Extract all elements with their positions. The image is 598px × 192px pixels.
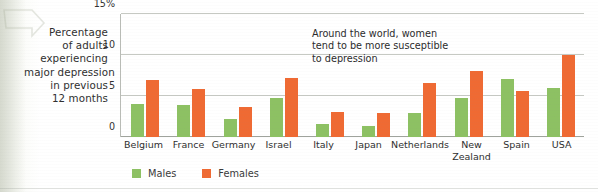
bar-males-israel bbox=[270, 98, 283, 137]
x-axis-label-italy: Italy bbox=[301, 139, 346, 162]
annotation-line: Around the world, women bbox=[312, 28, 448, 40]
bar-group bbox=[214, 14, 260, 137]
bar-males-japan bbox=[362, 126, 375, 137]
bottom-divider bbox=[0, 188, 598, 189]
bar-group bbox=[538, 14, 584, 137]
bar-group bbox=[492, 14, 538, 137]
bar-males-belgium bbox=[131, 104, 144, 137]
x-axis-label-line: Zealand bbox=[449, 151, 494, 163]
bar-group bbox=[261, 14, 307, 137]
x-axis-label-line: Japan bbox=[346, 139, 391, 151]
x-axis-label-line: New bbox=[449, 139, 494, 151]
x-axis-label-line: Belgium bbox=[121, 139, 166, 151]
caption-line: 12 months bbox=[24, 92, 108, 105]
bar-males-italy bbox=[316, 124, 329, 137]
x-axis-label-netherlands: Netherlands bbox=[391, 139, 449, 162]
bar-males-new-zealand bbox=[455, 98, 468, 137]
x-axis-label-germany: Germany bbox=[211, 139, 256, 162]
bar-males-france bbox=[177, 105, 190, 137]
chart-caption: Percentage of adults experiencing major … bbox=[24, 26, 108, 105]
plot-area: 15%1050 Around the world, women tend to … bbox=[120, 14, 584, 137]
annotation-line: tend to be more susceptible bbox=[312, 40, 448, 52]
bar-group bbox=[445, 14, 491, 137]
male-swatch-icon bbox=[132, 169, 141, 178]
y-axis-tick-label: 0 bbox=[109, 121, 115, 132]
y-axis-tick-label: 15% bbox=[94, 0, 115, 9]
legend-label: Females bbox=[218, 168, 259, 179]
y-axis-tick-label: 5 bbox=[109, 80, 115, 91]
x-axis-label-line: France bbox=[166, 139, 211, 151]
bar-group bbox=[122, 14, 168, 137]
x-axis-label-japan: Japan bbox=[346, 139, 391, 162]
caption-line: major depression bbox=[24, 66, 108, 79]
x-axis-label-line: Netherlands bbox=[391, 139, 449, 151]
bar-females-israel bbox=[285, 78, 298, 137]
chart-page: Percentage of adults experiencing major … bbox=[0, 0, 598, 192]
x-axis-label-belgium: Belgium bbox=[121, 139, 166, 162]
chart-legend: Males Females bbox=[132, 168, 259, 179]
bar-females-belgium bbox=[146, 80, 159, 137]
annotation-line: to depression bbox=[312, 53, 448, 65]
x-axis-labels: BelgiumFranceGermanyIsraelItalyJapanNeth… bbox=[121, 139, 584, 162]
x-axis-label-line: Israel bbox=[256, 139, 301, 151]
caption-line: of adults bbox=[24, 39, 108, 52]
x-axis-label-spain: Spain bbox=[494, 139, 539, 162]
bar-males-spain bbox=[501, 79, 514, 137]
x-axis-label-line: Italy bbox=[301, 139, 346, 151]
x-axis-label-france: France bbox=[166, 139, 211, 162]
legend-item-males: Males bbox=[132, 168, 176, 179]
chart-annotation: Around the world, women tend to be more … bbox=[312, 28, 448, 65]
caption-line: Percentage bbox=[24, 26, 108, 39]
bar-chart: 15%1050 Around the world, women tend to … bbox=[116, 8, 584, 140]
x-axis-label-line: Germany bbox=[211, 139, 256, 151]
bar-group bbox=[168, 14, 214, 137]
x-axis-label-line: Spain bbox=[494, 139, 539, 151]
bar-females-italy bbox=[331, 112, 344, 137]
bar-females-france bbox=[192, 89, 205, 137]
x-axis-label-israel: Israel bbox=[256, 139, 301, 162]
legend-item-females: Females bbox=[202, 168, 259, 179]
x-axis-label-line: USA bbox=[539, 139, 584, 151]
bar-females-new-zealand bbox=[470, 71, 483, 137]
caption-line: experiencing bbox=[24, 52, 108, 65]
x-axis-label-new-zealand: NewZealand bbox=[449, 139, 494, 162]
bar-females-japan bbox=[377, 113, 390, 137]
bar-females-usa bbox=[562, 55, 575, 137]
female-swatch-icon bbox=[202, 169, 211, 178]
bar-males-usa bbox=[547, 88, 560, 137]
bar-females-spain bbox=[516, 91, 529, 137]
x-axis-label-usa: USA bbox=[539, 139, 584, 162]
bar-males-germany bbox=[224, 119, 237, 137]
bar-females-netherlands bbox=[423, 83, 436, 137]
legend-label: Males bbox=[148, 168, 176, 179]
caption-line: in previous bbox=[24, 79, 108, 92]
bar-females-germany bbox=[239, 107, 252, 137]
bar-males-netherlands bbox=[408, 113, 421, 137]
y-axis-tick-label: 10 bbox=[103, 39, 115, 50]
